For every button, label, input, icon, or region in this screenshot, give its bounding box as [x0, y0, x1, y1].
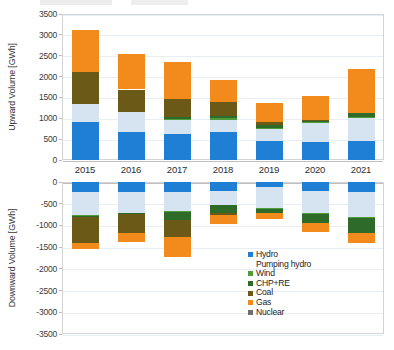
bar-segment-hydro — [118, 132, 145, 160]
bar-segment-hydro — [164, 134, 191, 160]
bar-segment-coal — [164, 220, 191, 237]
bar-segment-gas — [72, 243, 99, 248]
y-tick-mark — [59, 203, 62, 204]
bar-segment-pumping-hydro — [118, 112, 145, 132]
bar-segment-coal — [164, 99, 191, 117]
legend-swatch-hydro — [248, 252, 253, 257]
bar-segment-gas — [210, 80, 237, 102]
legend-label: Nuclear — [256, 308, 284, 318]
bar-segment-pumping-hydro — [302, 191, 329, 214]
x-tick-label: 2019 — [246, 164, 292, 175]
bar-segment-gas — [164, 62, 191, 99]
y-tick-label: 2500 — [39, 51, 57, 61]
bar-segment-coal — [302, 120, 329, 121]
y-tick-mark — [59, 76, 62, 77]
legend-swatch-wind — [248, 271, 253, 276]
bar-segment-coal — [118, 90, 145, 113]
y-tick-label: 3500 — [39, 9, 57, 19]
upward-volume-chart: 0500100015002000250030003500Upward Volum… — [0, 4, 394, 174]
y-tick-label: 1500 — [39, 92, 57, 102]
bar-segment-coal — [256, 122, 283, 125]
bar-segment-coal — [72, 217, 99, 244]
bar-segment-hydro — [348, 141, 375, 160]
bar-segment-wind — [210, 118, 237, 120]
bar-segment-coal — [72, 72, 99, 105]
bar-segment-gas — [72, 30, 99, 72]
bar-segment-hydro — [302, 182, 329, 191]
bar-segment-chp-re — [210, 116, 237, 118]
y-tick-mark — [59, 34, 62, 35]
bar-segment-pumping-hydro — [256, 187, 283, 208]
bar-segment-pumping-hydro — [302, 122, 329, 142]
bar-segment-pumping-hydro — [72, 192, 99, 215]
bar-segment-gas — [118, 233, 145, 242]
legend-swatch-nuclear — [248, 310, 253, 315]
y-tick-label: 2000 — [39, 72, 57, 82]
bar-segment-gas — [118, 54, 145, 90]
stacked-bar — [72, 182, 99, 334]
y-tick-mark — [59, 268, 62, 269]
bar-segment-chp-re — [164, 212, 191, 220]
y-tick-mark — [59, 247, 62, 248]
y-tick-mark — [59, 139, 62, 140]
bar-segment-hydro — [302, 142, 329, 160]
stacked-bar — [302, 14, 329, 160]
x-tick-label: 2020 — [292, 164, 338, 175]
legend-swatch-coal — [248, 291, 253, 296]
stacked-bar — [72, 14, 99, 160]
bar-segment-chp-re — [348, 218, 375, 232]
stacked-bar — [210, 182, 237, 334]
gridline — [63, 335, 383, 336]
bar-segment-gas — [302, 223, 329, 232]
zero-axis-line — [63, 161, 383, 162]
figure-root: 0500100015002000250030003500Upward Volum… — [0, 0, 394, 350]
y-tick-mark — [59, 312, 62, 313]
y-tick-label: -3000 — [36, 307, 57, 317]
x-tick-label: 2017 — [154, 164, 200, 175]
bar-segment-pumping-hydro — [118, 192, 145, 212]
bar-segment-hydro — [210, 132, 237, 160]
legend-swatch-chp-re — [248, 281, 253, 286]
bar-segment-wind — [256, 128, 283, 129]
bar-segment-gas — [348, 233, 375, 243]
bar-segment-chp-re — [348, 113, 375, 117]
y-tick-mark — [59, 225, 62, 226]
y-tick-label: -2000 — [36, 264, 57, 274]
y-tick-label: 1000 — [39, 113, 57, 123]
bar-segment-hydro — [72, 182, 99, 192]
y-tick-label: -3500 — [36, 329, 57, 339]
bar-segment-pumping-hydro — [164, 120, 191, 134]
y-tick-label: -1000 — [36, 220, 57, 230]
x-tick-label: 2021 — [338, 164, 384, 175]
bar-segment-chp-re — [210, 205, 237, 213]
bar-segment-pumping-hydro — [256, 129, 283, 142]
legend-swatch-gas — [248, 300, 253, 305]
bar-segment-chp-re — [164, 117, 191, 118]
stacked-bar — [348, 14, 375, 160]
stacked-bar — [164, 182, 191, 334]
bar-segment-chp-re — [256, 125, 283, 128]
stacked-bar — [210, 14, 237, 160]
y-tick-mark — [59, 160, 62, 161]
y-tick-label: 3000 — [39, 30, 57, 40]
bar-segment-hydro — [210, 182, 237, 191]
bar-segment-gas — [256, 103, 283, 122]
stacked-bar — [164, 14, 191, 160]
bar-segment-pumping-hydro — [210, 120, 237, 131]
y-tick-label: -500 — [41, 199, 57, 209]
bar-segment-hydro — [256, 141, 283, 160]
stacked-bar — [118, 182, 145, 334]
bar-segment-wind — [348, 117, 375, 118]
bar-segment-wind — [164, 119, 191, 120]
y-tick-mark — [59, 118, 62, 119]
legend-swatch-pumping-hydro — [248, 262, 253, 267]
x-tick-label: 2016 — [108, 164, 154, 175]
y-tick-label: 500 — [43, 134, 57, 144]
y-tick-mark — [59, 182, 62, 183]
bar-segment-hydro — [164, 182, 191, 192]
y-tick-mark — [59, 334, 62, 335]
y-axis-title: Downward Volume [GWh] — [7, 209, 17, 308]
bar-segment-gas — [348, 69, 375, 113]
chart-legend: HydroPumping hydroWindCHP+RECoalGasNucle… — [248, 250, 358, 317]
bar-segment-pumping-hydro — [72, 104, 99, 122]
